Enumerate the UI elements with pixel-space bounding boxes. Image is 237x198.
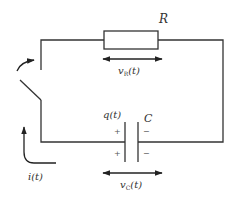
resistor-label: R xyxy=(158,12,168,26)
capacitor: C q(t) + + − − xyxy=(103,109,153,162)
capacitor-plus-top: + xyxy=(114,127,121,136)
capacitor-label: C xyxy=(144,112,153,125)
rc-circuit-diagram: R vR(t) C q(t) + + − − vC(t) i(t) xyxy=(0,0,237,198)
switch-blade xyxy=(20,80,41,100)
capacitor-voltage: vC(t) xyxy=(103,173,162,191)
switch-closing-arrow-icon xyxy=(17,60,34,71)
resistor: R xyxy=(104,12,168,49)
switch xyxy=(17,60,41,100)
wire-top-left xyxy=(41,40,104,70)
circuit-wires xyxy=(41,40,223,142)
resistor-voltage: vR(t) xyxy=(103,59,162,77)
capacitor-minus-top: − xyxy=(143,127,150,136)
capacitor-charge-label: q(t) xyxy=(103,109,121,120)
wire-bottom-left xyxy=(41,100,125,142)
capacitor-minus-bottom: − xyxy=(143,149,150,158)
resistor-voltage-label: vR(t) xyxy=(118,65,140,77)
current-label: i(t) xyxy=(28,171,43,182)
current-indicator: i(t) xyxy=(24,127,56,182)
wire-top-right xyxy=(138,40,223,142)
capacitor-voltage-label: vC(t) xyxy=(120,179,142,191)
current-arrow-icon xyxy=(24,127,56,163)
resistor-body xyxy=(104,31,158,49)
capacitor-plus-bottom: + xyxy=(114,149,121,158)
